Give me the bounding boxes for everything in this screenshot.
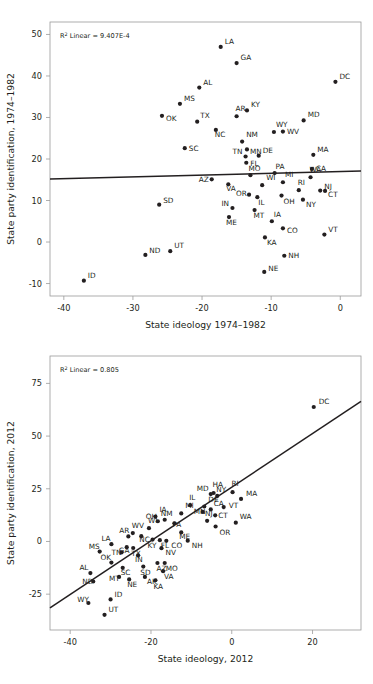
data-point-label: CT: [328, 190, 338, 199]
data-point: [82, 279, 86, 283]
data-point: [311, 153, 315, 157]
data-point-label: DC: [339, 72, 350, 81]
x-tick-label: -20: [195, 303, 208, 313]
data-point: [210, 177, 214, 181]
data-point-label: RI: [298, 178, 305, 187]
data-point-label: MD: [308, 110, 320, 119]
x-axis-title: State ideology, 2012: [158, 653, 254, 664]
data-point-label: LA: [225, 37, 234, 46]
data-point: [281, 226, 285, 230]
data-point-label: SD: [163, 196, 174, 205]
data-point-label: SC: [121, 568, 131, 577]
data-point: [322, 232, 326, 236]
x-axis-title: State ideology 1974–1982: [145, 319, 266, 330]
data-point-label: MA: [317, 145, 328, 154]
data-point: [270, 219, 274, 223]
data-point-label: PA: [276, 162, 285, 171]
x-tick-label: -40: [64, 637, 77, 647]
data-point-label: IN: [135, 555, 143, 564]
r-squared-annotation: R2 Linear = 0.805: [60, 365, 119, 374]
data-point-label: NH: [192, 541, 203, 550]
data-point-label: OR: [236, 189, 247, 198]
data-point-label: KY: [251, 100, 261, 109]
y-tick-label: 40: [32, 71, 42, 81]
data-point-label: KA: [267, 238, 277, 247]
data-point: [239, 497, 243, 501]
data-point-label: MI: [185, 501, 193, 510]
data-point-label: WA: [240, 512, 252, 521]
data-point-label: OK: [100, 553, 111, 562]
data-point: [179, 511, 183, 515]
data-point: [257, 154, 261, 158]
data-point-label: TX: [199, 111, 209, 120]
data-point-label: LA: [101, 534, 110, 543]
data-point: [312, 405, 316, 409]
data-point: [243, 154, 247, 158]
data-point: [159, 546, 163, 550]
data-point-label: WV: [132, 521, 144, 530]
data-point-label: IA: [274, 210, 281, 219]
data-point: [234, 521, 238, 525]
data-point-label: MO: [248, 164, 260, 173]
y-tick-label: 0: [37, 237, 42, 247]
data-point-label: TN: [232, 147, 243, 156]
data-point: [301, 198, 305, 202]
chart-panel-bottom: -40-20020-250255075State ideology, 2012S…: [0, 342, 373, 684]
data-point-label: NV: [165, 548, 175, 557]
data-point-label: CO: [287, 226, 298, 235]
data-point-label: DE: [263, 146, 274, 155]
data-point: [281, 180, 285, 184]
data-point-label: VT: [229, 501, 239, 510]
x-tick-label: -40: [57, 303, 70, 313]
data-point: [102, 613, 106, 617]
y-axis-title: State party identification, 1974–1982: [5, 73, 16, 245]
data-point-label: KA: [153, 582, 163, 591]
data-point: [213, 513, 217, 517]
data-point-label: DC: [319, 397, 330, 406]
data-point: [108, 597, 112, 601]
data-point-label: VA: [164, 572, 174, 581]
y-tick-label: 30: [32, 112, 42, 122]
data-point-label: RI: [232, 479, 239, 488]
data-point-label: NJ: [205, 509, 213, 518]
scatter-plot-top: -40-30-20-100-1001020304050State ideolog…: [0, 0, 373, 342]
x-tick-label: 20: [307, 637, 317, 647]
data-point-label: NY: [306, 200, 316, 209]
data-point-label: PA: [172, 520, 181, 529]
data-point-label: VT: [328, 225, 338, 234]
data-point-label: MS: [89, 542, 100, 551]
data-point-label: NM: [161, 509, 173, 518]
x-tick-label: 0: [338, 303, 343, 313]
data-point-label: AR: [119, 526, 129, 535]
data-point-label: GA: [241, 53, 252, 62]
data-point-label: CA: [214, 499, 224, 508]
y-tick-label: 20: [32, 154, 42, 164]
data-point-label: ID: [115, 590, 123, 599]
regression-line: [50, 401, 361, 608]
data-point: [260, 183, 264, 187]
data-point: [205, 519, 209, 523]
data-point-label: WV: [287, 127, 299, 136]
x-tick-label: -10: [264, 303, 277, 313]
data-point-label: AZ: [199, 175, 209, 184]
y-tick-label: 50: [32, 29, 42, 39]
data-point-label: WY: [276, 120, 288, 129]
data-point: [143, 253, 147, 257]
data-point-label: NH: [288, 251, 299, 260]
data-point: [262, 270, 266, 274]
data-point: [163, 518, 167, 522]
data-point-label: KY: [148, 541, 158, 550]
data-point: [245, 147, 249, 151]
data-point-label: IN: [221, 199, 229, 208]
data-point: [333, 80, 337, 84]
data-point: [213, 524, 217, 528]
data-point-label: MT: [254, 211, 265, 220]
y-tick-label: 0: [37, 536, 42, 546]
data-point-label: MT: [109, 574, 120, 583]
data-point-label: VA: [226, 184, 236, 193]
y-tick-label: -25: [29, 589, 42, 599]
data-point: [178, 102, 182, 106]
data-point-label: ND: [149, 246, 160, 255]
data-point: [235, 114, 239, 118]
data-point-label: OK: [166, 114, 177, 123]
